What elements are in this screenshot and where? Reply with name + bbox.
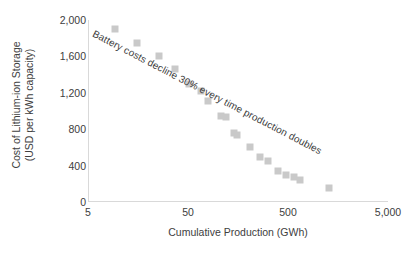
x-axis-tick-label: 50 — [182, 206, 194, 218]
y-axis-tick-label: 1,600 — [46, 50, 86, 62]
data-point-marker — [233, 131, 240, 138]
data-point-marker — [275, 167, 282, 174]
data-point-marker — [296, 177, 303, 184]
data-point-marker — [247, 143, 254, 150]
x-axis-tick-label: 500 — [279, 206, 297, 218]
y-axis-title: Cost of Lithium-ion Storage (USD per kWh… — [0, 0, 46, 210]
x-axis-tick-label: 5 — [85, 206, 91, 218]
y-axis-tick-label: 800 — [46, 123, 86, 135]
x-axis-tick-labels: 5505005,000 — [0, 206, 403, 222]
y-axis-tick-label: 400 — [46, 160, 86, 172]
x-axis-tick-label: 5,000 — [375, 206, 401, 218]
data-point-marker — [223, 114, 230, 121]
y-axis-title-line-2: (USD per kWh capacity) — [23, 41, 36, 168]
chart-container: Cost of Lithium-ion Storage (USD per kWh… — [0, 0, 403, 253]
data-point-marker — [283, 172, 290, 179]
data-point-marker — [265, 157, 272, 164]
data-point-marker — [256, 153, 263, 160]
y-axis-title-line-1: Cost of Lithium-ion Storage — [10, 41, 23, 168]
x-axis-title: Cumulative Production (GWh) — [88, 226, 388, 238]
data-point-marker — [325, 184, 332, 191]
y-axis-tick-label: 2,000 — [46, 14, 86, 26]
data-point-marker — [133, 39, 140, 46]
y-axis-tick-label: 1,200 — [46, 87, 86, 99]
data-point-marker — [111, 26, 118, 33]
